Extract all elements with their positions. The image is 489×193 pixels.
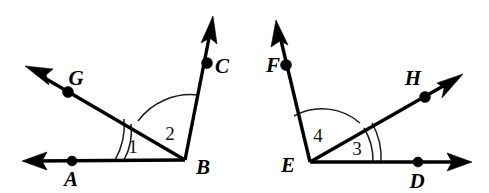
angle-label-2: 2 (165, 123, 175, 144)
ray-BA (22, 152, 185, 170)
point-label-D: D (408, 169, 424, 193)
point-F-dot (281, 60, 292, 71)
point-label-F: F (265, 53, 280, 77)
point-label-G: G (68, 66, 83, 90)
angle-2-arc (138, 95, 198, 121)
ray-EH (310, 74, 463, 162)
point-H-dot (420, 92, 431, 103)
angle-2-arc-marks (138, 95, 198, 121)
ray-BC (185, 16, 217, 160)
point-label-A: A (62, 167, 78, 191)
ray-ED (310, 153, 472, 171)
ray-BA-line (32, 160, 185, 161)
point-C-dot (202, 58, 213, 69)
point-D-dot (413, 157, 423, 167)
ray-EH-arrowhead (437, 74, 463, 98)
point-label-H: H (404, 66, 422, 90)
ray-BG-line (36, 73, 185, 160)
angle-figure-B: A G C B 1 2 (22, 16, 230, 191)
angle-label-4: 4 (313, 125, 323, 146)
angle-figure-E: D F H E 4 3 (265, 20, 472, 193)
angle-3-arc-inner (364, 128, 373, 162)
ray-BG (25, 66, 185, 160)
angle-4-arc-marks (294, 109, 360, 123)
ray-EF-arrowhead (271, 20, 288, 47)
point-label-B: B (195, 155, 210, 179)
point-A-dot (67, 156, 77, 166)
angle-label-1: 1 (128, 136, 138, 157)
angle-4-arc (294, 109, 360, 123)
angle-label-3: 3 (352, 138, 362, 159)
point-label-E: E (280, 153, 295, 177)
geometry-diagram: A G C B 1 2 (0, 0, 489, 193)
geometry-canvas: A G C B 1 2 (0, 0, 489, 193)
ray-EF (271, 20, 310, 162)
point-label-C: C (215, 54, 230, 78)
ray-EF-line (279, 32, 310, 162)
